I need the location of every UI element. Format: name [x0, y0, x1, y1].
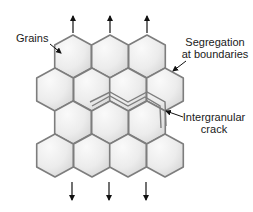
grain-lattice [37, 35, 184, 177]
label-segregation-line2: at boundaries [182, 48, 249, 60]
label-crack-group: Intergranular crack [166, 111, 246, 135]
label-grains: Grains [16, 32, 49, 44]
grain-hexagon [147, 134, 184, 177]
leader-arrow-icon [166, 111, 183, 117]
tensile-arrows-bottom [72, 182, 146, 200]
label-segregation-group: Segregation at boundaries [173, 36, 249, 71]
tensile-arrows-top [73, 16, 147, 33]
label-crack-line2: crack [201, 123, 228, 135]
label-crack-line1: Intergranular [183, 111, 246, 123]
label-segregation-line1: Segregation [185, 36, 244, 48]
grain-hexagon [37, 134, 74, 177]
grain-hexagon [74, 134, 111, 177]
grain-hexagon [110, 134, 147, 177]
grain-boundary-diagram: Grains Segregation at boundaries Intergr… [0, 0, 253, 212]
leader-arrow-icon [173, 61, 186, 71]
